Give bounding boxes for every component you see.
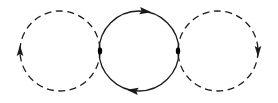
right-vertex-dot: [176, 48, 180, 55]
left-vertex-dot: [98, 48, 102, 55]
feynman-diagram-svg: [0, 0, 278, 103]
feynman-diagram-canvas: [0, 0, 278, 103]
